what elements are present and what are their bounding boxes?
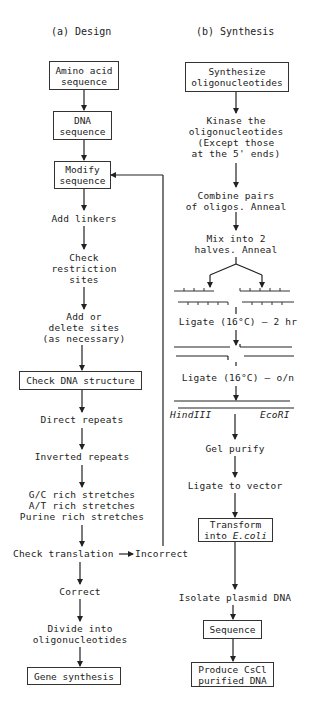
kinase-line3: (Except those [176,137,296,148]
mix-line1: Mix into 2 [176,233,296,244]
mix-halves-step: Mix into 2 halves. Anneal [176,233,296,255]
produce-line1: Produce CsCl [198,664,267,675]
transform-line2: into E.coli [204,530,267,541]
check-restriction-line2: restriction [34,263,134,274]
ecoli-organism-name: E.coli [233,530,267,541]
purine-rich-line: Purine rich stretches [7,511,157,522]
dna-sequence-line2: sequence [60,126,106,137]
incorrect-outcome: Incorrect [135,548,188,559]
ligate-to-vector-step: Ligate to vector [180,480,290,491]
modify-line1: Modify [65,164,99,175]
synthesize-line2: oligonucleotides [191,77,283,88]
dna-sequence-box: DNA sequence [53,111,112,140]
gc-rich-line: G/C rich stretches [7,489,157,500]
hindiii-site-label: HindIII [170,409,211,420]
combine-pairs-step: Combine pairs of oligos. Anneal [176,190,296,212]
ecori-site-label: EcoRI [260,409,290,420]
dna-sequence-line1: DNA [74,115,91,126]
modify-sequence-box: Modify sequence [54,161,111,189]
transform-into-text: into [204,530,233,541]
add-delete-line1: Add or [29,311,139,322]
kinase-step: Kinase the oligonucleotides (Except thos… [176,115,296,159]
rich-stretches-step: G/C rich stretches A/T rich stretches Pu… [7,489,157,522]
check-dna-structure-label: Check DNA structure [26,375,135,386]
oligo-fragments [174,288,294,305]
produce-cscl-box: Produce CsCl purified DNA [191,662,274,687]
amino-acid-line2: sequence [61,76,107,87]
kinase-line2: oligonucleotides [176,126,296,137]
sequence-label: Sequence [210,624,256,635]
check-restriction-step: Check restriction sites [34,252,134,285]
inverted-repeats-step: Inverted repeats [22,451,142,462]
correct-outcome: Correct [40,586,120,597]
transform-line1: Transform [210,519,261,530]
divide-line1: Divide into [20,623,140,634]
design-heading: (a) Design [51,26,111,38]
mix-line2: halves. Anneal [176,244,296,255]
check-dna-structure-box: Check DNA structure [19,371,142,390]
isolate-plasmid-step: Isolate plasmid DNA [170,592,300,603]
add-delete-line2: delete sites [29,322,139,333]
kinase-line1: Kinase the [176,115,296,126]
add-linkers-step: Add linkers [34,213,134,224]
combine-line2: of oligos. Anneal [176,201,296,212]
kinase-line4: at the 5' ends) [176,148,296,159]
gel-purify-step: Gel purify [185,443,285,454]
combine-line1: Combine pairs [176,190,296,201]
divide-oligos-step: Divide into oligonucleotides [20,623,140,645]
check-translation-step: Check translation [13,548,114,559]
gene-synthesis-box: Gene synthesis [27,667,121,685]
at-rich-line: A/T rich stretches [7,500,157,511]
check-restriction-line3: sites [34,274,134,285]
gene-synthesis-label: Gene synthesis [34,671,114,682]
transform-ecoli-box: Transform into E.coli [198,518,273,542]
produce-line2: purified DNA [198,675,267,686]
add-delete-sites-step: Add or delete sites (as necessary) [29,311,139,344]
add-delete-line3: (as necessary) [29,333,139,344]
ligate-overnight-step: Ligate (16°C) — o/n [176,372,300,383]
divide-line2: oligonucleotides [20,634,140,645]
check-restriction-line1: Check [34,252,134,263]
amino-acid-line1: Amino acid [55,65,112,76]
direct-repeats-step: Direct repeats [22,414,142,425]
sequence-box: Sequence [203,620,262,639]
amino-acid-sequence-box: Amino acid sequence [49,61,119,90]
synthesize-line1: Synthesize [208,66,265,77]
synthesis-heading: (b) Synthesis [196,26,274,38]
ligate-2hr-step: Ligate (16°C) — 2 hr [176,316,300,327]
modify-line2: sequence [60,175,106,186]
synthesize-oligos-box: Synthesize oligonucleotides [185,62,289,92]
